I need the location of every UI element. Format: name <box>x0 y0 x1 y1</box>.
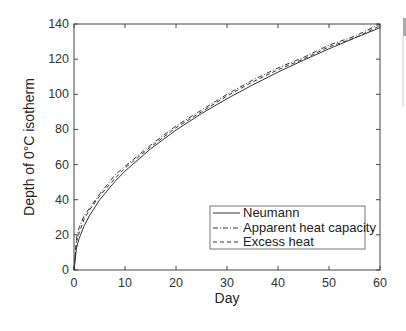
x-tick-label: 10 <box>118 276 132 290</box>
y-tick-label: 0 <box>62 263 69 277</box>
x-axis: 0102030405060 <box>71 24 387 290</box>
y-tick-label: 80 <box>55 122 69 136</box>
legend-neumann: Neumann <box>243 205 299 220</box>
legend-excess-heat: Excess heat <box>243 234 314 249</box>
y-tick-label: 40 <box>55 193 69 207</box>
y-axis-label: Depth of 0°C isotherm <box>21 78 37 216</box>
legend-apparent-heat-capacity: Apparent heat capacity <box>243 220 376 235</box>
y-tick-label: 140 <box>48 17 69 31</box>
y-tick-label: 100 <box>48 87 69 101</box>
x-tick-label: 50 <box>322 276 336 290</box>
y-tick-label: 60 <box>55 158 69 172</box>
x-tick-label: 30 <box>220 276 234 290</box>
x-tick-label: 40 <box>271 276 285 290</box>
legend: Neumann Apparent heat capacity Excess he… <box>210 205 376 249</box>
chart: 0102030405060 020406080100120140 Day Dep… <box>0 0 406 331</box>
x-axis-label: Day <box>215 290 240 306</box>
x-tick-label: 0 <box>71 276 78 290</box>
y-tick-label: 20 <box>55 228 69 242</box>
y-tick-label: 120 <box>48 52 69 66</box>
x-tick-label: 60 <box>373 276 387 290</box>
x-tick-label: 20 <box>169 276 183 290</box>
